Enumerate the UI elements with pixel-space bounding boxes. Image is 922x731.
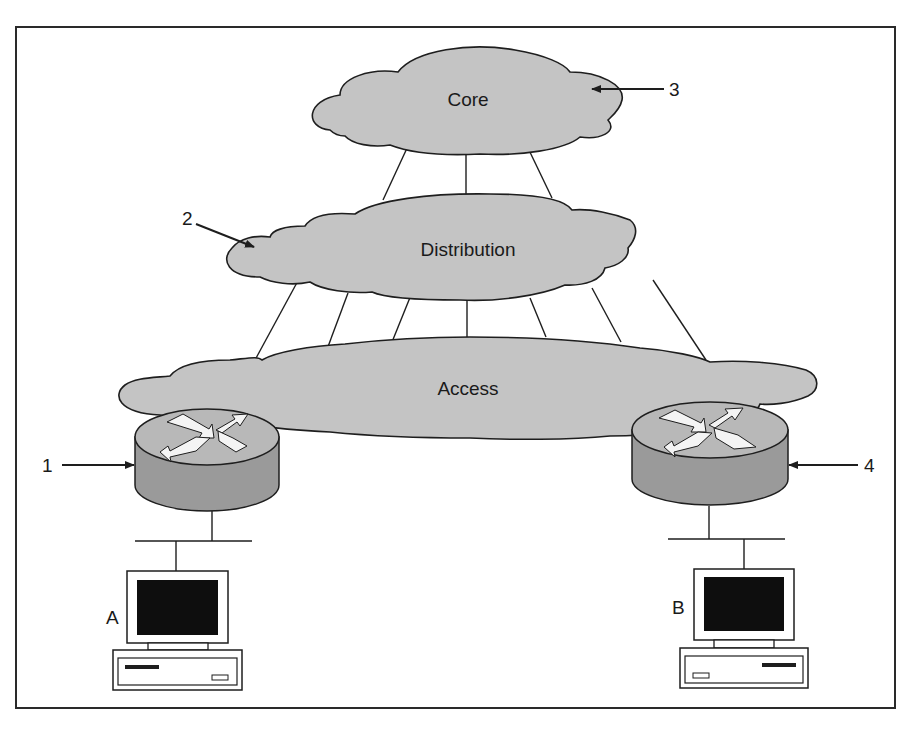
host-b-computer bbox=[680, 569, 808, 688]
host-a-label: A bbox=[106, 607, 119, 628]
core-label: Core bbox=[447, 89, 488, 110]
callout-3-label: 3 bbox=[669, 79, 680, 100]
callout-1-label: 1 bbox=[42, 455, 53, 476]
network-hierarchy-diagram: Core Distribution Access bbox=[0, 0, 922, 731]
access-label: Access bbox=[437, 378, 498, 399]
callout-4-label: 4 bbox=[864, 455, 875, 476]
distribution-label: Distribution bbox=[420, 239, 515, 260]
router-right bbox=[632, 402, 788, 505]
router-left bbox=[135, 409, 279, 511]
callout-2-label: 2 bbox=[182, 208, 193, 229]
host-a-computer bbox=[113, 571, 242, 690]
host-b-label: B bbox=[672, 597, 685, 618]
